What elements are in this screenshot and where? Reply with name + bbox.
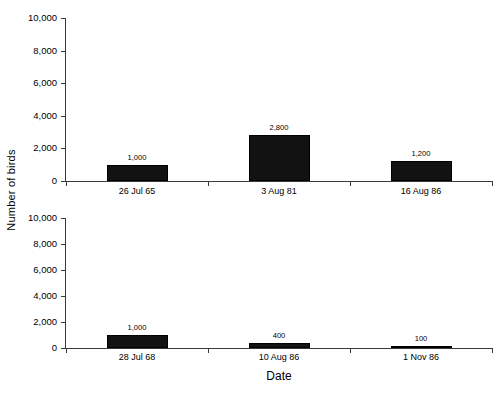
y-axis-tick xyxy=(61,296,66,297)
x-axis-title: Date xyxy=(66,369,492,383)
y-axis-tick-label: 10,000 xyxy=(5,13,57,23)
y-axis-tick-label: 6,000 xyxy=(5,265,57,275)
y-axis-tick xyxy=(61,83,66,84)
x-axis-tick xyxy=(350,348,351,353)
y-axis-tick xyxy=(61,270,66,271)
y-axis-line-bottom xyxy=(65,218,66,348)
bar xyxy=(107,335,168,348)
x-axis-tick xyxy=(208,348,209,353)
plot-area-bottom: 10,0008,0006,0004,0002,0000 1,000400100 xyxy=(66,218,492,348)
bar-value-label: 1,000 xyxy=(107,154,167,162)
x-axis-line-top xyxy=(65,181,492,182)
x-axis-tick xyxy=(492,181,493,186)
y-axis-tick-label: 2,000 xyxy=(5,317,57,327)
x-axis-category-label: 1 Nov 86 xyxy=(376,352,466,362)
bar xyxy=(391,161,452,181)
y-axis-tick xyxy=(61,322,66,323)
chart-panel-top: 10,0008,0006,0004,0002,0000 1,0002,8001,… xyxy=(0,0,504,199)
x-axis-category-label: 28 Jul 68 xyxy=(92,352,182,362)
bar xyxy=(249,343,310,348)
y-axis-tick xyxy=(61,244,66,245)
y-axis-line-top xyxy=(65,18,66,181)
plot-area-top: 10,0008,0006,0004,0002,0000 1,0002,8001,… xyxy=(66,18,492,181)
bar xyxy=(107,165,168,181)
y-axis-tick xyxy=(61,116,66,117)
x-axis-category-label: 10 Aug 86 xyxy=(234,352,324,362)
bar-value-label: 400 xyxy=(249,332,309,340)
y-axis-tick xyxy=(61,51,66,52)
bar-value-label: 1,000 xyxy=(107,324,167,332)
y-axis-tick xyxy=(61,218,66,219)
bar xyxy=(391,346,452,348)
bar-value-label: 100 xyxy=(391,335,451,343)
bar-value-label: 2,800 xyxy=(249,124,309,132)
y-axis-tick-label: 4,000 xyxy=(5,111,57,121)
x-axis-tick xyxy=(208,181,209,186)
bar-chart-figure: Number of birds 10,0008,0006,0004,0002,0… xyxy=(0,0,504,398)
x-axis-line-bottom xyxy=(65,348,492,349)
y-axis-tick xyxy=(61,18,66,19)
x-axis-tick xyxy=(350,181,351,186)
y-axis-tick-label: 10,000 xyxy=(5,213,57,223)
y-axis-tick-label: 8,000 xyxy=(5,46,57,56)
y-axis-tick xyxy=(61,148,66,149)
y-axis-tick-label: 0 xyxy=(5,343,57,353)
x-axis-tick xyxy=(66,348,67,353)
x-axis-category-label: 16 Aug 86 xyxy=(376,186,466,196)
y-axis-tick-label: 0 xyxy=(5,176,57,186)
x-axis-tick xyxy=(66,181,67,186)
y-axis-tick-label: 2,000 xyxy=(5,144,57,154)
x-axis-category-label: 26 Jul 65 xyxy=(92,186,182,196)
y-axis-tick-label: 6,000 xyxy=(5,78,57,88)
bar-value-label: 1,200 xyxy=(391,150,451,158)
y-axis-tick-label: 4,000 xyxy=(5,291,57,301)
x-axis-tick xyxy=(492,348,493,353)
bar xyxy=(249,135,310,181)
x-axis-category-label: 3 Aug 81 xyxy=(234,186,324,196)
y-axis-tick-label: 8,000 xyxy=(5,239,57,249)
